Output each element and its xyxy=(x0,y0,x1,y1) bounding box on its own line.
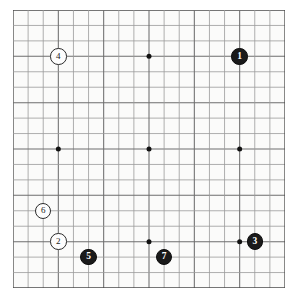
stone-white-move-6[interactable]: 6 xyxy=(35,203,51,219)
stone-move-number: 4 xyxy=(56,52,61,61)
stone-move-number: 1 xyxy=(237,52,242,62)
stone-black-move-3[interactable]: 3 xyxy=(247,233,263,249)
stone-white-move-4[interactable]: 4 xyxy=(50,48,66,64)
stone-move-number: 2 xyxy=(56,237,61,246)
go-board-diagram: 1234567 xyxy=(0,0,299,302)
goban[interactable]: 1234567 xyxy=(13,10,285,288)
stone-black-move-5[interactable]: 5 xyxy=(80,249,96,265)
stone-move-number: 6 xyxy=(41,206,46,215)
stone-black-move-7[interactable]: 7 xyxy=(156,249,172,265)
stone-white-move-2[interactable]: 2 xyxy=(50,233,66,249)
stone-layer: 1234567 xyxy=(13,10,285,288)
stone-move-number: 7 xyxy=(162,252,167,262)
stone-black-move-1[interactable]: 1 xyxy=(231,48,247,64)
stone-move-number: 3 xyxy=(252,237,257,247)
stone-move-number: 5 xyxy=(86,252,91,262)
